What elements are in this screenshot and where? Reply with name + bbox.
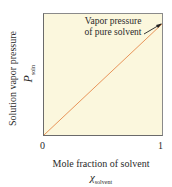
annotation-text: Vapor pressure of pure solvent xyxy=(78,16,148,38)
data-line xyxy=(44,24,162,135)
y-axis-symbol: Psoln xyxy=(21,65,36,82)
y-axis-label: Solution vapor pressure xyxy=(7,14,18,144)
x-axis-symbol: χsolvent xyxy=(30,171,172,185)
annotation-line-2: of pure solvent xyxy=(78,27,148,38)
x-axis-label: Mole fraction of solvent xyxy=(30,158,172,169)
x-tick-1: 1 xyxy=(158,140,163,151)
x-tick-0: 0 xyxy=(40,140,45,151)
annotation-line-1: Vapor pressure xyxy=(78,16,148,27)
